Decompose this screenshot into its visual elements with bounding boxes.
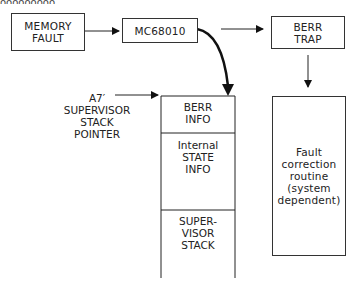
- arrow-cpu-to-stack: [197, 29, 228, 86]
- fault-correction-routine-box: Fault correction routine (system depende…: [272, 96, 346, 256]
- stack-internal-state-info: Internal STATE INFO: [161, 139, 235, 175]
- memory-fault-box: MEMORY FAULT: [11, 13, 85, 51]
- berr-trap-box: BERR TRAP: [271, 16, 345, 49]
- stack-supervisor-stack: SUPER- VISOR STACK: [161, 215, 235, 251]
- mc68010-box: MC68010: [122, 18, 198, 43]
- supervisor-stack-pointer-label: A7′ SUPERVISOR STACK POINTER: [56, 92, 138, 140]
- stack-berr-info: BERR INFO: [161, 101, 235, 125]
